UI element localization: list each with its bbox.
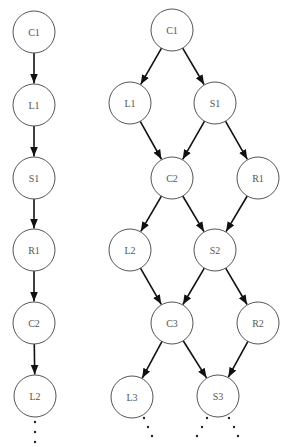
continuation-dot bbox=[206, 417, 208, 419]
node-r1: R1 bbox=[237, 157, 279, 199]
edge-c3-to-s3 bbox=[183, 341, 206, 378]
continuation-dot bbox=[34, 441, 36, 443]
node-label: R2 bbox=[252, 318, 264, 329]
continuation-dot bbox=[196, 435, 198, 437]
continuation-dot bbox=[233, 426, 235, 428]
node-l3: L3 bbox=[111, 376, 153, 418]
edge-c2-to-l2 bbox=[141, 196, 162, 231]
edge-c3-to-l3 bbox=[142, 341, 162, 378]
edge-l2-to-c3 bbox=[140, 268, 161, 304]
node-s2: S2 bbox=[194, 229, 236, 271]
node-c2: C2 bbox=[13, 302, 55, 344]
node-l1: L1 bbox=[109, 82, 151, 124]
edge-s1-to-r1 bbox=[225, 121, 247, 159]
node-label: C1 bbox=[166, 25, 178, 36]
node-label: C2 bbox=[28, 318, 40, 329]
edge-r1-to-s2 bbox=[226, 196, 247, 232]
node-label: C2 bbox=[166, 173, 178, 184]
lattice-diagram: C1L1S1C2R1L2S2C3R2L3S3 bbox=[109, 9, 279, 437]
sequential-chain-diagram: C1L1S1R1C2L2 bbox=[13, 11, 56, 443]
node-l2: L2 bbox=[14, 375, 56, 417]
continuation-dot bbox=[147, 426, 149, 428]
node-c2: C2 bbox=[151, 157, 193, 199]
continuation-dot bbox=[34, 431, 36, 433]
node-s3: S3 bbox=[197, 375, 239, 417]
node-label: C1 bbox=[28, 27, 40, 38]
continuation-dot bbox=[228, 417, 230, 419]
node-l1: L1 bbox=[13, 84, 55, 126]
continuation-dot bbox=[143, 417, 145, 419]
node-label: C3 bbox=[166, 318, 178, 329]
node-r2: R2 bbox=[237, 302, 279, 344]
continuation-dot bbox=[237, 435, 239, 437]
node-label: S1 bbox=[29, 173, 40, 184]
edge-c1-to-l1 bbox=[141, 48, 162, 84]
continuation-dot bbox=[151, 435, 153, 437]
node-label: L3 bbox=[126, 392, 137, 403]
node-label: S2 bbox=[210, 245, 221, 256]
edge-s2-to-c3 bbox=[183, 268, 204, 304]
edge-c2-to-s2 bbox=[183, 196, 204, 232]
node-s1: S1 bbox=[194, 82, 236, 124]
node-label: R1 bbox=[252, 173, 264, 184]
node-label: L2 bbox=[124, 245, 135, 256]
node-s1: S1 bbox=[13, 157, 55, 199]
node-label: S3 bbox=[213, 391, 224, 402]
edge-s2-to-r2 bbox=[226, 268, 247, 304]
node-label: L1 bbox=[28, 100, 39, 111]
node-l2: L2 bbox=[109, 229, 151, 271]
edge-l1-to-c2 bbox=[140, 121, 161, 159]
node-label: L1 bbox=[124, 98, 135, 109]
continuation-dot bbox=[34, 421, 36, 423]
node-label: L2 bbox=[29, 391, 40, 402]
node-r1: R1 bbox=[13, 229, 55, 271]
node-c1: C1 bbox=[151, 9, 193, 51]
node-c3: C3 bbox=[151, 302, 193, 344]
node-label: R1 bbox=[28, 245, 40, 256]
edge-c1-to-s1 bbox=[183, 48, 204, 84]
node-c1: C1 bbox=[13, 11, 55, 53]
diagram-canvas: C1L1S1R1C2L2 C1L1S1C2R1L2S2C3R2L3S3 bbox=[0, 0, 292, 447]
edge-s1-to-c2 bbox=[183, 121, 205, 159]
continuation-dot bbox=[201, 426, 203, 428]
edge-r2-to-s3 bbox=[228, 341, 248, 377]
node-label: S1 bbox=[210, 98, 221, 109]
